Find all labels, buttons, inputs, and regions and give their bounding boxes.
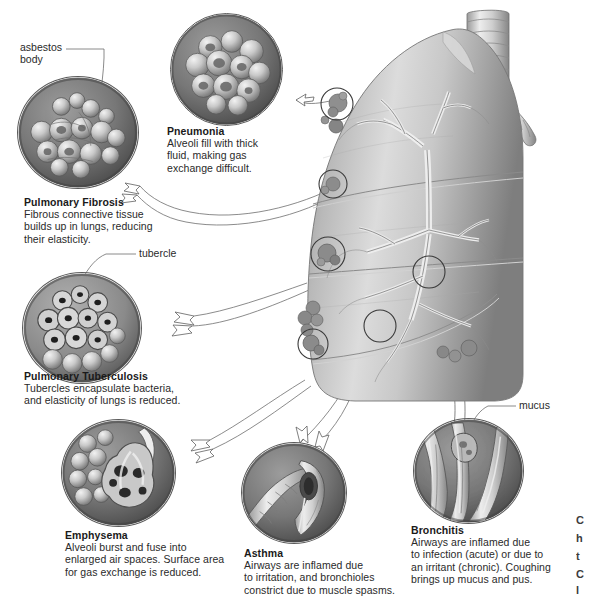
callout-pulmonary-fibrosis-line-2: builds up in lungs, reducing: [24, 220, 199, 232]
callout-bronchitis-line-3: an irritant (chronic). Coughing: [411, 561, 576, 573]
callout-emphysema-line-3: for gas exchange is reduced.: [65, 566, 265, 578]
label-mucus: mucus: [519, 399, 550, 411]
edge-clipped-char-4: C: [576, 568, 584, 580]
edge-clipped-char-3: t: [576, 550, 580, 562]
callout-pulmonary-fibrosis-line-1: Fibrous connective tissue: [24, 208, 199, 220]
callout-pulmonary-tuberculosis-line-1: Tubercles encapsulate bacteria,: [24, 382, 239, 394]
detail-circle-emphysema: [61, 419, 176, 527]
label-asbestos-body-line1: asbestos: [20, 41, 80, 53]
callout-pneumonia-line-3: exchange difficult.: [167, 162, 287, 174]
callout-emphysema-line-2: enlarged air spaces. Surface area: [65, 553, 265, 565]
callout-pulmonary-fibrosis-title: Pulmonary Fibrosis: [24, 196, 199, 208]
detail-circle-pulmonary-tuberculosis: [22, 272, 142, 384]
callout-pulmonary-tuberculosis-line-2: and elasticity of lungs is reduced.: [24, 394, 239, 406]
edge-clipped-char-1: C: [576, 514, 584, 526]
callout-emphysema-line-1: Alveoli burst and fuse into: [65, 541, 265, 553]
callout-asthma-line-3: constrict due to muscle spasms.: [244, 584, 444, 596]
callout-pulmonary-fibrosis: Pulmonary Fibrosis Fibrous connective ti…: [24, 196, 199, 245]
callout-bronchitis: Bronchitis Airways are inflamed due to i…: [411, 524, 576, 586]
callout-pneumonia: Pneumonia Alveoli fill with thick fluid,…: [167, 125, 287, 174]
callout-bronchitis-line-2: to infection (acute) or due to: [411, 548, 576, 560]
detail-circle-pulmonary-fibrosis: [17, 76, 139, 189]
callout-pulmonary-tuberculosis: Pulmonary Tuberculosis Tubercles encapsu…: [24, 370, 239, 407]
callout-bronchitis-title: Bronchitis: [411, 524, 576, 536]
edge-clipped-text: C h t C l: [576, 510, 590, 596]
edge-clipped-char-5: l: [576, 584, 579, 596]
lung-body: [308, 29, 523, 401]
label-tubercle: tubercle: [139, 247, 176, 259]
callout-bronchitis-line-1: Airways are inflamed due: [411, 536, 576, 548]
edge-clipped-char-2: h: [576, 532, 583, 544]
callout-pneumonia-line-2: fluid, making gas: [167, 149, 287, 161]
detail-circle-bronchitis: [413, 418, 524, 524]
callout-emphysema-title: Emphysema: [65, 529, 265, 541]
callout-bronchitis-line-4: brings up mucus and pus.: [411, 573, 576, 585]
label-asbestos-body: asbestos body: [20, 41, 80, 65]
detail-circle-pneumonia: [170, 13, 283, 126]
label-asbestos-body-line2: body: [20, 53, 80, 65]
callout-emphysema: Emphysema Alveoli burst and fuse into en…: [65, 529, 265, 578]
lung-diagram-icon: [283, 8, 590, 428]
callout-pulmonary-fibrosis-line-3: their elasticity.: [24, 233, 199, 245]
callout-pneumonia-title: Pneumonia: [167, 125, 287, 137]
callout-pneumonia-line-1: Alveoli fill with thick: [167, 137, 287, 149]
callout-pulmonary-tuberculosis-title: Pulmonary Tuberculosis: [24, 370, 239, 382]
illustration-canvas: asbestos body tubercle mucus Pneumonia A…: [0, 0, 590, 602]
